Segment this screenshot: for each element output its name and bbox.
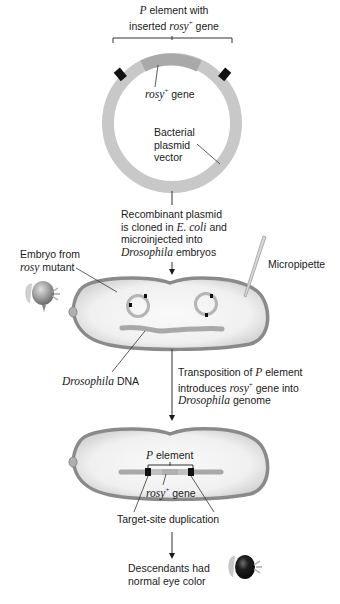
p-element-label-bottom: P element (146, 449, 193, 462)
p-italic: P (146, 449, 153, 461)
micropipette-label: Micropipette (268, 258, 325, 271)
text-fragment: and (206, 221, 226, 233)
text-line: Descendants had (128, 562, 210, 575)
drosophila-dna-label: Drosophila DNA (62, 375, 139, 388)
text-fragment: mutant (39, 261, 74, 273)
rosy-gene-label-bottom: rosy+ gene (146, 484, 196, 500)
text-fragment: DNA (114, 375, 139, 387)
text-line: Recombinant plasmid (121, 208, 227, 221)
text-fragment: element (153, 449, 193, 461)
text-fragment: is cloned in (121, 221, 176, 233)
text-fragment: inserted (129, 20, 169, 32)
descendants-label: Descendants had normal eye color (128, 562, 210, 587)
text-line: vector (154, 151, 195, 164)
embryo-from-mutant-label: Embryo from rosy mutant (20, 248, 80, 273)
rosy-italic: rosy (145, 88, 164, 100)
text-fragment: gene into (253, 382, 299, 394)
p-element-bracket (113, 36, 232, 43)
plasmid-vector-label: Bacterial plasmid vector (154, 126, 195, 164)
text-line: Bacterial (154, 126, 195, 139)
p-italic: P (140, 4, 147, 16)
target-site-duplication-label: Target-site duplication (117, 513, 219, 526)
text-line: Embryo from (20, 248, 80, 261)
text-line: plasmid (154, 139, 195, 152)
step1-label: Recombinant plasmid is cloned in E. coli… (121, 208, 227, 258)
rosy-italic: rosy (229, 382, 248, 394)
step2-label: Transposition of P element introduces ro… (178, 366, 303, 407)
p-element-header-label: P element with inserted rosy+ gene (120, 4, 228, 32)
drosophila-italic: Drosophila (62, 375, 114, 387)
embryo-transformed (69, 429, 268, 512)
normal-fly-head-icon (229, 555, 262, 579)
mutant-fly-head-icon (26, 281, 60, 312)
drosophila-italic: Drosophila (178, 394, 230, 406)
text-fragment: embryos (173, 246, 216, 258)
text-fragment: element with (147, 4, 209, 16)
ecoli-italic: E. coli (176, 221, 206, 233)
text-fragment: introduces (178, 382, 229, 394)
text-fragment: gene (168, 88, 194, 100)
bacterial-plasmid (108, 59, 236, 187)
text-fragment: element (262, 366, 302, 378)
rosy-italic: rosy (169, 20, 188, 32)
drosophila-italic: Drosophila (121, 246, 173, 258)
text-line: normal eye color (128, 575, 210, 588)
text-fragment: gene (193, 20, 219, 32)
text-fragment: gene (169, 487, 195, 499)
text-line: microinjected into (121, 233, 227, 246)
rosy-italic: rosy (146, 487, 165, 499)
text-fragment: genome (230, 394, 271, 406)
rosy-italic: rosy (20, 261, 39, 273)
embryo-injection (69, 268, 268, 372)
rosy-gene-label-top: rosy+ gene (145, 85, 195, 101)
text-fragment: Transposition of (178, 366, 255, 378)
